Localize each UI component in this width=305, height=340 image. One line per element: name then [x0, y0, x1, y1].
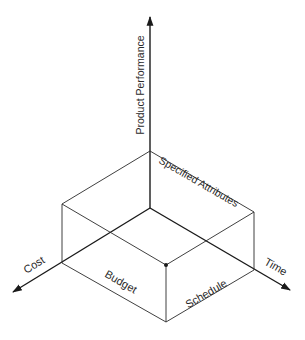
box-bottom-edges	[62, 263, 254, 322]
triple-constraint-diagram: Product Performance Cost Time Specified …	[0, 0, 305, 340]
schedule-label: Schedule	[183, 277, 229, 310]
front-corner-dot	[164, 263, 168, 267]
budget-label: Budget	[103, 268, 139, 296]
time-label: Time	[263, 255, 290, 277]
box-vertical-edges	[62, 204, 254, 322]
product-performance-label: Product Performance	[134, 35, 146, 134]
cost-label: Cost	[21, 254, 47, 276]
box-top-face	[62, 151, 254, 265]
specified-attributes-label: Specified Attributes	[157, 154, 241, 209]
